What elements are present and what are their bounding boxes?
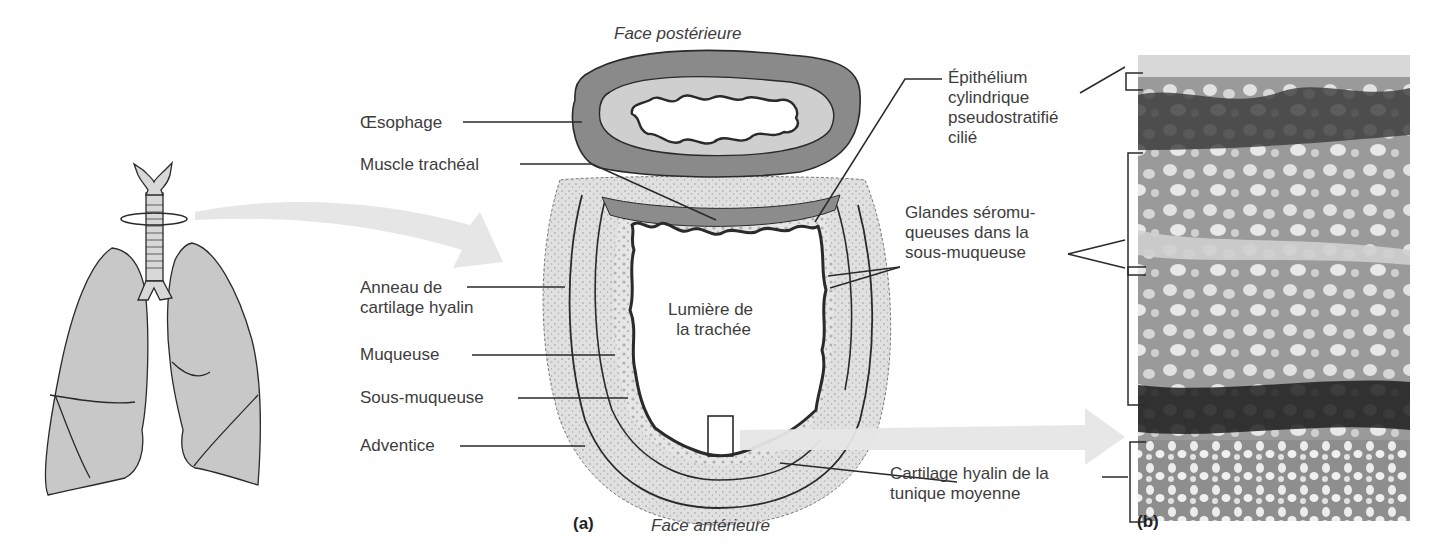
label-line: Cartilage hyalin de la — [890, 464, 1049, 484]
label-line: sous-muqueuse — [905, 243, 1035, 263]
label-line: Épithélium — [948, 68, 1059, 88]
label-line: cilié — [948, 128, 1059, 148]
label-line: Anneau de — [360, 278, 473, 298]
label-line: cylindrique — [948, 88, 1059, 108]
label-line: queuses dans la — [905, 223, 1035, 243]
face-posterieure-label: Face postérieure — [614, 24, 742, 44]
panel-a-label: (a) — [573, 514, 594, 534]
label-muqueuse: Muqueuse — [360, 345, 439, 365]
label-line: Glandes séromu- — [905, 203, 1035, 223]
label-line: tunique moyenne — [890, 484, 1049, 504]
micrograph — [1126, 55, 1410, 522]
label-glandes: Glandes séromu- queuses dans la sous-muq… — [905, 203, 1035, 263]
label-cartilage-tunique: Cartilage hyalin de la tunique moyenne — [890, 464, 1049, 504]
label-sous-muqueuse: Sous-muqueuse — [360, 388, 484, 408]
label-line: pseudostratifié — [948, 108, 1059, 128]
face-anterieure-label: Face antérieure — [651, 516, 770, 536]
label-muscle-tracheal: Muscle trachéal — [360, 155, 479, 175]
lumen-label: Lumière de la trachée — [668, 300, 753, 340]
label-oesophage: Œsophage — [360, 113, 442, 133]
lumen-label-line2: la trachée — [674, 320, 753, 340]
trachea-diagram — [0, 0, 1451, 557]
panel-b-label: (b) — [1137, 512, 1159, 532]
label-line: cartilage hyalin — [360, 298, 473, 318]
label-adventice: Adventice — [360, 436, 435, 456]
label-anneau-cartilage: Anneau de cartilage hyalin — [360, 278, 473, 318]
curved-arrow — [195, 202, 503, 268]
label-epithelium: Épithélium cylindrique pseudostratifié c… — [948, 68, 1059, 148]
trachea-cross-section — [543, 50, 891, 525]
lumen-label-line1: Lumière de — [668, 300, 753, 320]
